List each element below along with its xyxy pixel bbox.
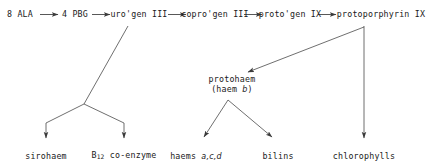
node-pbg: 4 PBG [62,9,88,19]
arrow-urogen-sirohaem [46,104,84,138]
b12-subscript: 12 [97,153,105,160]
node-sirohaem: sirohaem [25,151,67,161]
haems-letters: a,c,d [201,152,221,161]
node-protoporphyrin: protoporphyrin IX [337,9,425,19]
protohaem-sublabel: (haem b) [209,84,256,95]
protohaem-sublabel-close: ) [248,84,253,94]
arrow-protoporphyrin-protohaem [248,27,364,72]
node-protohaem: protohaem (haem b) [209,74,256,95]
node-chlorophylls: chlorophylls [333,151,395,161]
node-haems: haems a,c,d [170,151,222,162]
b12-rest: co-enzyme [105,150,157,160]
haems-label: haems [170,151,201,161]
node-ala: 8 ALA [7,9,33,19]
protohaem-label: protohaem [209,74,256,84]
arrow-protohaem-bilins [228,100,272,137]
node-coprogen: copro'gen III [181,9,249,19]
arrow-urogen-b12 [84,104,124,138]
protohaem-sublabel-open: (haem [211,84,242,94]
arrow-protohaem-haems [204,100,228,137]
node-bilins: bilins [262,151,293,161]
stem-urogen-fork [84,26,128,104]
pathway-diagram: 8 ALA 4 PBG uro'gen III copro'gen III pr… [0,0,432,168]
node-protogen: proto'gen IX [259,9,321,19]
node-b12-coenzyme: B12 co-enzyme [91,150,156,163]
node-urogen: uro'gen III [110,9,167,19]
